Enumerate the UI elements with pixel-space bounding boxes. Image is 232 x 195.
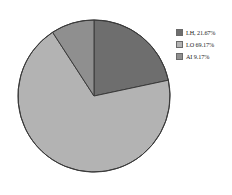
pie-svg xyxy=(16,18,172,174)
legend-item-ai[interactable]: AI 9.17% xyxy=(176,50,232,62)
pie-slices xyxy=(18,20,170,172)
pie-chart: LH, 21.67% LO 69.17% AI 9.17% xyxy=(0,0,232,195)
chart-legend: LH, 21.67% LO 69.17% AI 9.17% xyxy=(176,26,232,62)
legend-item-lo[interactable]: LO 69.17% xyxy=(176,38,232,50)
legend-swatch-lo xyxy=(176,41,183,48)
legend-label-lo: LO 69.17% xyxy=(186,41,214,48)
pie-graphic xyxy=(16,18,172,174)
legend-swatch-lh xyxy=(176,29,183,36)
legend-label-lh: LH, 21.67% xyxy=(186,29,215,36)
legend-label-ai: AI 9.17% xyxy=(186,53,209,60)
legend-item-lh[interactable]: LH, 21.67% xyxy=(176,26,232,38)
legend-swatch-ai xyxy=(176,53,183,60)
